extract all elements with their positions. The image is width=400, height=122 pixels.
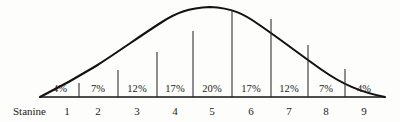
stanine-tick-labels: 1 2 3 4 5 6 7 8 9 xyxy=(64,105,367,117)
stanine-chart-svg: 4% 7% 12% 17% 20% 17% 12% 7% 4% Stanine … xyxy=(0,0,400,122)
stanine-number-6: 6 xyxy=(248,105,254,117)
stanine-number-3: 3 xyxy=(134,105,140,117)
stanine-number-8: 8 xyxy=(323,105,329,117)
stanine-number-4: 4 xyxy=(172,105,178,117)
percent-label-stanine-8: 7% xyxy=(319,83,333,94)
stanine-number-5: 5 xyxy=(209,105,215,117)
percent-label-stanine-7: 12% xyxy=(279,83,299,94)
percent-label-stanine-3: 12% xyxy=(127,83,147,94)
stanine-number-1: 1 xyxy=(64,105,70,117)
percent-labels: 4% 7% 12% 17% 20% 17% 12% 7% 4% xyxy=(53,83,371,94)
stanine-distribution-figure: 4% 7% 12% 17% 20% 17% 12% 7% 4% Stanine … xyxy=(0,0,400,122)
percent-label-stanine-5: 20% xyxy=(202,83,222,94)
stanine-number-2: 2 xyxy=(95,105,101,117)
stanine-number-9: 9 xyxy=(361,105,367,117)
percent-label-stanine-4: 17% xyxy=(165,83,185,94)
percent-label-stanine-2: 7% xyxy=(91,83,105,94)
percent-label-stanine-1: 4% xyxy=(53,83,67,94)
percent-label-stanine-6: 17% xyxy=(241,83,261,94)
stanine-number-7: 7 xyxy=(286,105,292,117)
percent-label-stanine-9: 4% xyxy=(357,83,371,94)
axis-title-stanine: Stanine xyxy=(13,105,46,117)
